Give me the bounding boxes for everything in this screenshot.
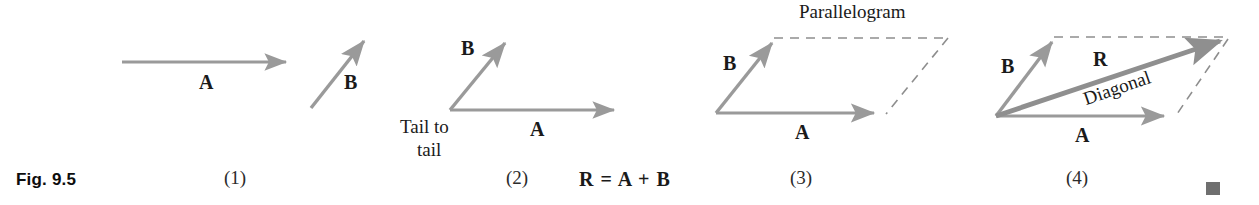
panel-number-4: (4)	[1066, 168, 1088, 187]
vector-a-label-panel-2: A	[530, 119, 545, 139]
dashed-right-edge-panel-3	[886, 38, 948, 114]
vector-b-label-panel-1: B	[344, 72, 358, 92]
vector-b-panel-2	[450, 43, 505, 110]
vector-a-label-panel-4: A	[1075, 125, 1090, 145]
panel-3-vectors	[716, 38, 948, 114]
figure-container: A B B A Tail to tail B A Parallelogram B…	[0, 0, 1259, 205]
vector-b-label-panel-4: B	[1001, 56, 1015, 76]
tail-to-tail-note-line2: tail	[417, 140, 441, 159]
end-of-section-marker	[1206, 182, 1220, 195]
panel-number-1: (1)	[224, 168, 246, 187]
vector-b-label-panel-3: B	[723, 53, 737, 73]
vector-b-label-panel-2: B	[461, 38, 475, 58]
resultant-equation: R = A + B	[579, 169, 671, 189]
panel-1-vectors	[122, 41, 364, 108]
vector-a-label-panel-3: A	[795, 122, 810, 142]
vector-a-label-panel-1: A	[199, 72, 214, 92]
dashed-right-edge-panel-4	[1175, 39, 1228, 117]
vector-r-label-panel-4: R	[1093, 49, 1108, 69]
tail-to-tail-note-line1: Tail to	[400, 117, 449, 136]
panel-number-2: (2)	[506, 168, 528, 187]
parallelogram-label: Parallelogram	[799, 2, 906, 21]
panel-number-3: (3)	[790, 168, 812, 187]
figure-caption: Fig. 9.5	[16, 171, 76, 188]
